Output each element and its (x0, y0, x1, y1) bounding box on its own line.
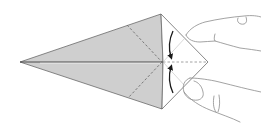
lower-thumb-icon (183, 78, 261, 122)
upper-finger-icon (186, 16, 261, 51)
white-diamond-flap (161, 14, 208, 109)
origami-diagram: Origami kite base: squash-fold flap clos… (0, 0, 261, 130)
diagram-canvas (0, 0, 261, 130)
